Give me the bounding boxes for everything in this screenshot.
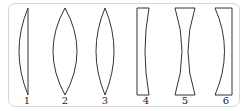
lens-label-4: 4 [140, 95, 152, 107]
lens-1-plano-convex [19, 8, 28, 95]
lens-label-2: 2 [59, 95, 71, 107]
lens-label-6: 6 [220, 95, 232, 107]
lens-label-5: 5 [179, 95, 191, 107]
lens-label-1: 1 [21, 95, 33, 107]
lens-3-biconvex [96, 8, 114, 95]
lens-2-biconvex [53, 8, 77, 95]
lens-label-3: 3 [99, 95, 111, 107]
lens-5-biconcave [175, 8, 195, 95]
lens-6-meniscus [215, 8, 232, 95]
lens-4-plano-concave [137, 8, 149, 95]
lens-diagram [0, 0, 244, 111]
